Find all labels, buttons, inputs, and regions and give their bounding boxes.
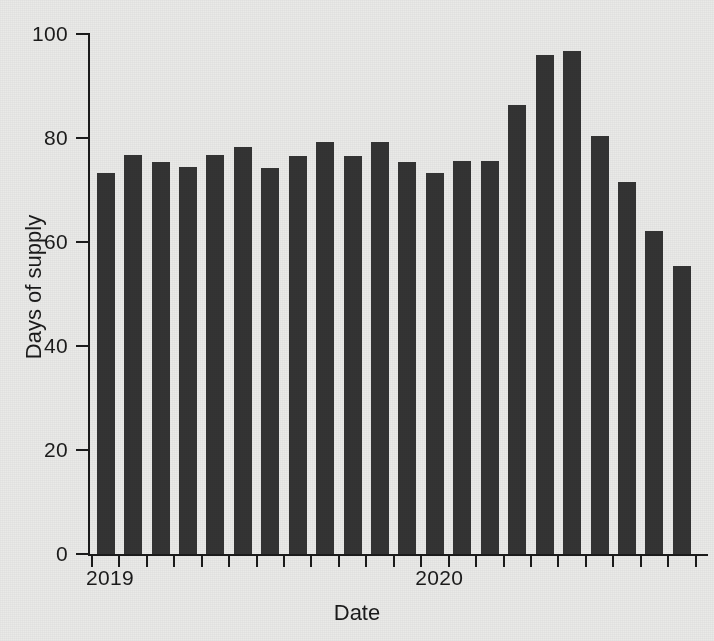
bar — [481, 161, 499, 554]
bar — [152, 162, 170, 554]
x-minor-tick — [640, 554, 642, 567]
x-minor-tick — [557, 554, 559, 567]
y-tick-label-20: 20 — [8, 439, 68, 460]
bar — [426, 173, 444, 554]
x-minor-tick — [310, 554, 312, 567]
y-axis-title: Days of supply — [21, 157, 47, 417]
bar — [398, 162, 416, 554]
y-tick-label-0: 0 — [8, 543, 68, 564]
x-minor-tick — [612, 554, 614, 567]
bar — [179, 167, 197, 554]
bar — [316, 142, 334, 554]
x-minor-tick — [585, 554, 587, 567]
x-axis-title: Date — [0, 600, 714, 626]
bar — [536, 55, 554, 554]
x-minor-tick — [173, 554, 175, 567]
x-axis-line — [88, 554, 708, 556]
x-minor-tick — [503, 554, 505, 567]
x-minor-tick — [146, 554, 148, 567]
x-minor-tick — [201, 554, 203, 567]
x-minor-tick — [475, 554, 477, 567]
bar — [618, 182, 636, 554]
bar — [344, 156, 362, 554]
y-tick-label-80: 80 — [8, 127, 68, 148]
bar — [563, 51, 581, 554]
x-minor-tick — [530, 554, 532, 567]
bar — [673, 266, 691, 554]
plot-area — [88, 34, 708, 554]
x-minor-tick — [695, 554, 697, 567]
x-minor-tick — [393, 554, 395, 567]
bar-chart: 020406080100 20192020 Date Days of suppl… — [0, 0, 714, 641]
bar — [508, 105, 526, 554]
bar — [234, 147, 252, 554]
bar — [289, 156, 307, 554]
x-minor-tick — [256, 554, 258, 567]
x-tick-label-2020: 2020 — [415, 566, 463, 589]
bar — [591, 136, 609, 554]
y-tick-label-100: 100 — [8, 23, 68, 44]
x-tick-label-2019: 2019 — [86, 566, 134, 589]
x-minor-tick — [365, 554, 367, 567]
bar — [453, 161, 471, 554]
x-minor-tick — [338, 554, 340, 567]
bar — [261, 168, 279, 554]
bar — [97, 173, 115, 554]
bar — [124, 155, 142, 554]
bar — [371, 142, 389, 554]
x-minor-tick — [667, 554, 669, 567]
bar — [645, 231, 663, 554]
x-minor-tick — [283, 554, 285, 567]
bar — [206, 155, 224, 554]
x-minor-tick — [228, 554, 230, 567]
